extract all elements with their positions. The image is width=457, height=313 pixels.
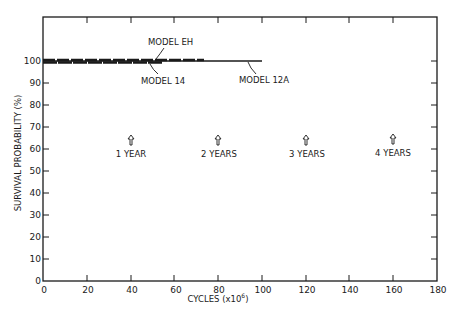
x-tick-label: 160 bbox=[385, 285, 402, 295]
x-tick-label: 20 bbox=[82, 285, 94, 295]
label-model-12a: MODEL 12A bbox=[239, 75, 289, 85]
y-axis-title: SURVIVAL PROBABILITY (%) bbox=[13, 95, 23, 212]
y-tick-label: 30 bbox=[30, 210, 42, 220]
y-tick-labels: 0 10 20 30 40 50 60 70 80 90 100 bbox=[24, 56, 41, 286]
y-tick-label: 0 bbox=[35, 276, 41, 286]
y-tick-label: 10 bbox=[30, 254, 42, 264]
leader-model-eh bbox=[156, 48, 164, 59]
survival-chart: 0 20 40 60 80 100 120 140 160 180 0 10 2… bbox=[0, 0, 457, 313]
x-tick-label: 180 bbox=[429, 285, 446, 295]
y-tick-label: 60 bbox=[30, 144, 42, 154]
label-4-years: 4 YEARS bbox=[375, 148, 411, 158]
y-tick-label: 80 bbox=[30, 100, 42, 110]
y-tick-label: 50 bbox=[30, 166, 42, 176]
x-tick-label: 60 bbox=[170, 285, 182, 295]
y-tick-label: 100 bbox=[24, 56, 41, 66]
y-tick-label: 70 bbox=[30, 122, 42, 132]
label-3-years: 3 YEARS bbox=[289, 149, 325, 159]
y-tick-label: 20 bbox=[30, 232, 42, 242]
leader-model-14 bbox=[150, 64, 158, 74]
x-tick-label: 100 bbox=[254, 285, 271, 295]
x-axis-ticks bbox=[87, 275, 393, 281]
y-axis-right-ticks bbox=[431, 61, 437, 259]
x-tick-label: 120 bbox=[298, 285, 315, 295]
x-tick-label: 40 bbox=[126, 285, 138, 295]
x-axis-top-ticks bbox=[87, 17, 393, 23]
label-model-eh: MODEL EH bbox=[148, 37, 193, 47]
x-tick-label: 0 bbox=[41, 285, 47, 295]
leader-model-12a bbox=[248, 62, 256, 74]
y-tick-label: 90 bbox=[30, 78, 42, 88]
y-tick-label: 40 bbox=[30, 188, 42, 198]
label-2-years: 2 YEARS bbox=[201, 149, 237, 159]
y-axis-ticks bbox=[43, 83, 49, 259]
x-tick-label: 140 bbox=[341, 285, 358, 295]
year-arrow-icon bbox=[128, 134, 396, 145]
label-1-year: 1 YEAR bbox=[116, 149, 146, 159]
label-model-14: MODEL 14 bbox=[141, 76, 185, 86]
x-axis-title: CYCLES (x106) bbox=[188, 292, 249, 304]
